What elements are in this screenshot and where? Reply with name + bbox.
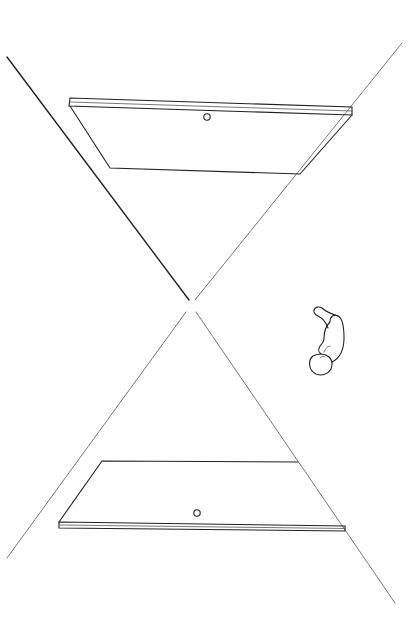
upper-left-line: [7, 57, 189, 300]
upper-plate-body: [70, 106, 352, 174]
upper-plate-circle-marker: [204, 114, 210, 120]
lower-plate-circle-marker: [194, 510, 200, 516]
upper-plate: [69, 98, 352, 174]
lower-plate: [59, 461, 345, 531]
diagram-canvas: [0, 0, 414, 623]
lower-left-line: [7, 312, 186, 558]
embryo-figure: [310, 307, 344, 375]
embryo-body: [319, 315, 344, 362]
lower-right-line: [196, 312, 395, 603]
lower-plate-body: [59, 461, 298, 522]
upper-plate-rim-inner: [70, 102, 352, 111]
embryo-tail: [314, 307, 338, 328]
